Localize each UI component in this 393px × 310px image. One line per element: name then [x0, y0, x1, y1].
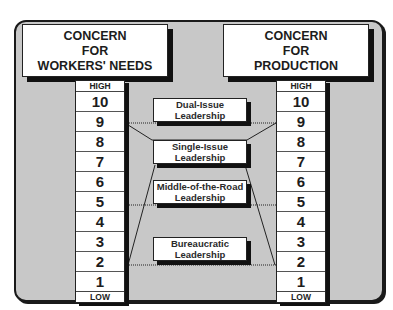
- scale-cell: 8: [76, 132, 124, 152]
- style-suffix: Leadership: [154, 153, 246, 164]
- header-line: FOR: [23, 44, 167, 59]
- scale-low-label: LOW: [277, 292, 325, 302]
- workers-needs-scale: HIGH 10 9 8 7 6 5 4 3 2 1 LOW: [75, 80, 125, 303]
- style-suffix: Leadership: [154, 250, 246, 261]
- scale-cell: 2: [76, 252, 124, 272]
- scale-cell: 6: [277, 172, 325, 192]
- dual-issue-leadership-box: Dual-Issue Leadership: [153, 98, 247, 122]
- scale-cell: 6: [76, 172, 124, 192]
- scale-cell: 4: [277, 212, 325, 232]
- scale-cell: 1: [76, 272, 124, 292]
- scale-cell: 9: [76, 112, 124, 132]
- scale-low-label: LOW: [76, 292, 124, 302]
- scale-cell: 2: [277, 252, 325, 272]
- style-suffix: Leadership: [154, 111, 246, 122]
- scale-high-label: HIGH: [76, 81, 124, 92]
- scale-cell: 5: [277, 192, 325, 212]
- style-name: Dual-Issue: [154, 100, 246, 111]
- style-suffix: Leadership: [154, 193, 246, 204]
- scale-cell: 10: [277, 92, 325, 112]
- scale-cell: 3: [76, 232, 124, 252]
- header-line: PRODUCTION: [224, 59, 368, 74]
- bureaucratic-leadership-box: Bureaucratic Leadership: [153, 237, 247, 261]
- header-line: CONCERN: [224, 29, 368, 44]
- style-name: Middle-of-the-Road: [154, 182, 246, 193]
- scale-cell: 5: [76, 192, 124, 212]
- single-issue-leadership-box: Single-Issue Leadership: [153, 140, 247, 164]
- header-line: CONCERN: [23, 29, 167, 44]
- scale-cell: 8: [277, 132, 325, 152]
- production-scale: HIGH 10 9 8 7 6 5 4 3 2 1 LOW: [276, 80, 326, 303]
- scale-cell: 3: [277, 232, 325, 252]
- style-name: Single-Issue: [154, 142, 246, 153]
- style-name: Bureaucratic: [154, 239, 246, 250]
- header-production: CONCERN FOR PRODUCTION: [223, 24, 369, 77]
- scale-cell: 4: [76, 212, 124, 232]
- header-line: WORKERS' NEEDS: [23, 59, 167, 74]
- header-line: FOR: [224, 44, 368, 59]
- scale-cell: 10: [76, 92, 124, 112]
- middle-of-the-road-leadership-box: Middle-of-the-Road Leadership: [153, 180, 247, 204]
- scale-cell: 7: [277, 152, 325, 172]
- scale-high-label: HIGH: [277, 81, 325, 92]
- scale-cell: 7: [76, 152, 124, 172]
- header-workers-needs: CONCERN FOR WORKERS' NEEDS: [22, 24, 168, 77]
- scale-cell: 1: [277, 272, 325, 292]
- scale-cell: 9: [277, 112, 325, 132]
